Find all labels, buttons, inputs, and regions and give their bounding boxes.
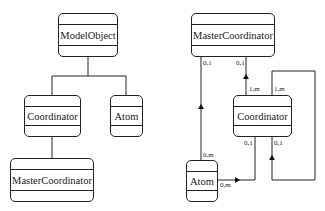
class-name: Coordinator (25, 106, 80, 126)
arrowhead-icon (198, 104, 204, 109)
class-name: Atom (187, 171, 217, 191)
multiplicity-label: 1,m (274, 86, 285, 93)
multiplicity-label: 0,1 (244, 140, 253, 147)
class-box-mastercoordinator: MasterCoordinator (191, 13, 275, 57)
arrowhead-icon (235, 177, 240, 183)
class-box-mastercoordinator: MasterCoordinator (10, 158, 94, 202)
class-box-modelobject: ModelObject (58, 13, 118, 57)
class-box-coordinator: Coordinator (24, 95, 81, 137)
class-name: Coordinator (234, 106, 291, 126)
class-box-atom: Atom (186, 160, 218, 202)
multiplicity-label: 0,m (220, 182, 231, 189)
class-box-atom: Atom (110, 95, 143, 137)
arrowhead-icon (243, 74, 249, 79)
class-name: MasterCoordinator (192, 24, 274, 46)
multiplicity-label: 0,1 (203, 60, 212, 67)
multiplicity-label: 0,1 (236, 60, 245, 67)
class-box-coordinator: Coordinator (233, 95, 292, 137)
multiplicity-label: 0,m (203, 152, 214, 159)
multiplicity-label: 0,1 (274, 140, 283, 147)
class-name: Atom (111, 106, 142, 126)
multiplicity-label: 1,m (249, 86, 260, 93)
arrowhead-icon (269, 155, 275, 160)
class-name: MasterCoordinator (11, 169, 93, 191)
class-name: ModelObject (59, 24, 117, 46)
